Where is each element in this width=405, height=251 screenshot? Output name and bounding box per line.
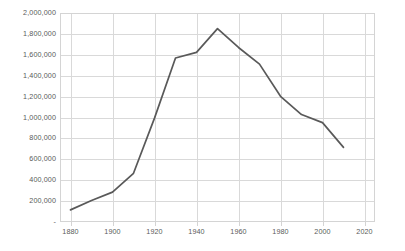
y-axis-tick-label: 2,000,000 xyxy=(2,9,56,16)
x-axis-tick-label: 1900 xyxy=(93,228,133,235)
x-axis-tick-mark xyxy=(239,222,240,226)
y-axis-tick-label: 1,800,000 xyxy=(2,30,56,37)
x-axis-tick-label: 1940 xyxy=(177,228,217,235)
y-axis-tick-label: 400,000 xyxy=(2,176,56,183)
y-axis-tick-label: 200,000 xyxy=(2,197,56,204)
line-chart: -200,000400,000600,000800,0001,000,0001,… xyxy=(0,0,405,251)
x-axis-tick-mark xyxy=(281,222,282,226)
y-axis-tick-label: 600,000 xyxy=(2,155,56,162)
x-axis-tick-mark xyxy=(365,222,366,226)
population-line xyxy=(71,29,344,210)
y-axis-tick-label: 1,600,000 xyxy=(2,51,56,58)
x-axis-tick-mark xyxy=(155,222,156,226)
x-axis-tick-label: 1960 xyxy=(219,228,259,235)
x-axis-tick-mark xyxy=(71,222,72,226)
x-axis-tick-label: 1880 xyxy=(51,228,91,235)
x-axis-tick-label: 2020 xyxy=(345,228,385,235)
x-axis-tick-mark xyxy=(197,222,198,226)
y-axis-tick-label: 1,400,000 xyxy=(2,72,56,79)
series-layer xyxy=(60,13,375,222)
y-axis-tick-label: 800,000 xyxy=(2,134,56,141)
x-axis-tick-label: 1980 xyxy=(261,228,301,235)
x-axis-tick-label: 2000 xyxy=(303,228,343,235)
x-axis-tick-mark xyxy=(323,222,324,226)
plot-area xyxy=(60,13,375,222)
x-axis-tick-label: 1920 xyxy=(135,228,175,235)
y-axis-tick-label: 1,200,000 xyxy=(2,93,56,100)
y-axis-tick-label: 1,000,000 xyxy=(2,114,56,121)
y-axis-tick-label: - xyxy=(2,218,56,225)
x-axis-tick-mark xyxy=(113,222,114,226)
